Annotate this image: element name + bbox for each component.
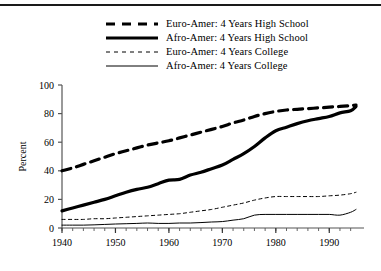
- y-axis-tick-label: 0: [49, 223, 54, 234]
- x-axis-tick-label: 1990: [319, 237, 339, 248]
- figure: Euro-Amer: 4 Years High School Afro-Amer…: [0, 0, 381, 271]
- x-axis-tick-label: 1970: [212, 237, 232, 248]
- series-line-2: [62, 192, 356, 219]
- series-line-1: [62, 106, 356, 210]
- series-line-0: [62, 105, 356, 171]
- x-axis-tick-label: 1950: [105, 237, 125, 248]
- y-axis-tick-label: 100: [39, 80, 54, 91]
- y-axis-tick-label: 80: [44, 108, 54, 119]
- y-axis-title: Percent: [17, 141, 28, 171]
- x-axis-tick-label: 1980: [266, 237, 286, 248]
- series-layer: [62, 105, 356, 225]
- x-axis-tick-label: 1940: [52, 237, 72, 248]
- chart-plot-area: 020406080100194019501960197019801990Perc…: [0, 0, 381, 271]
- series-line-3: [62, 209, 356, 225]
- x-axis-tick-label: 1960: [159, 237, 179, 248]
- y-axis-tick-label: 60: [44, 137, 54, 148]
- y-axis-tick-label: 20: [44, 194, 54, 205]
- y-axis-tick-label: 40: [44, 165, 54, 176]
